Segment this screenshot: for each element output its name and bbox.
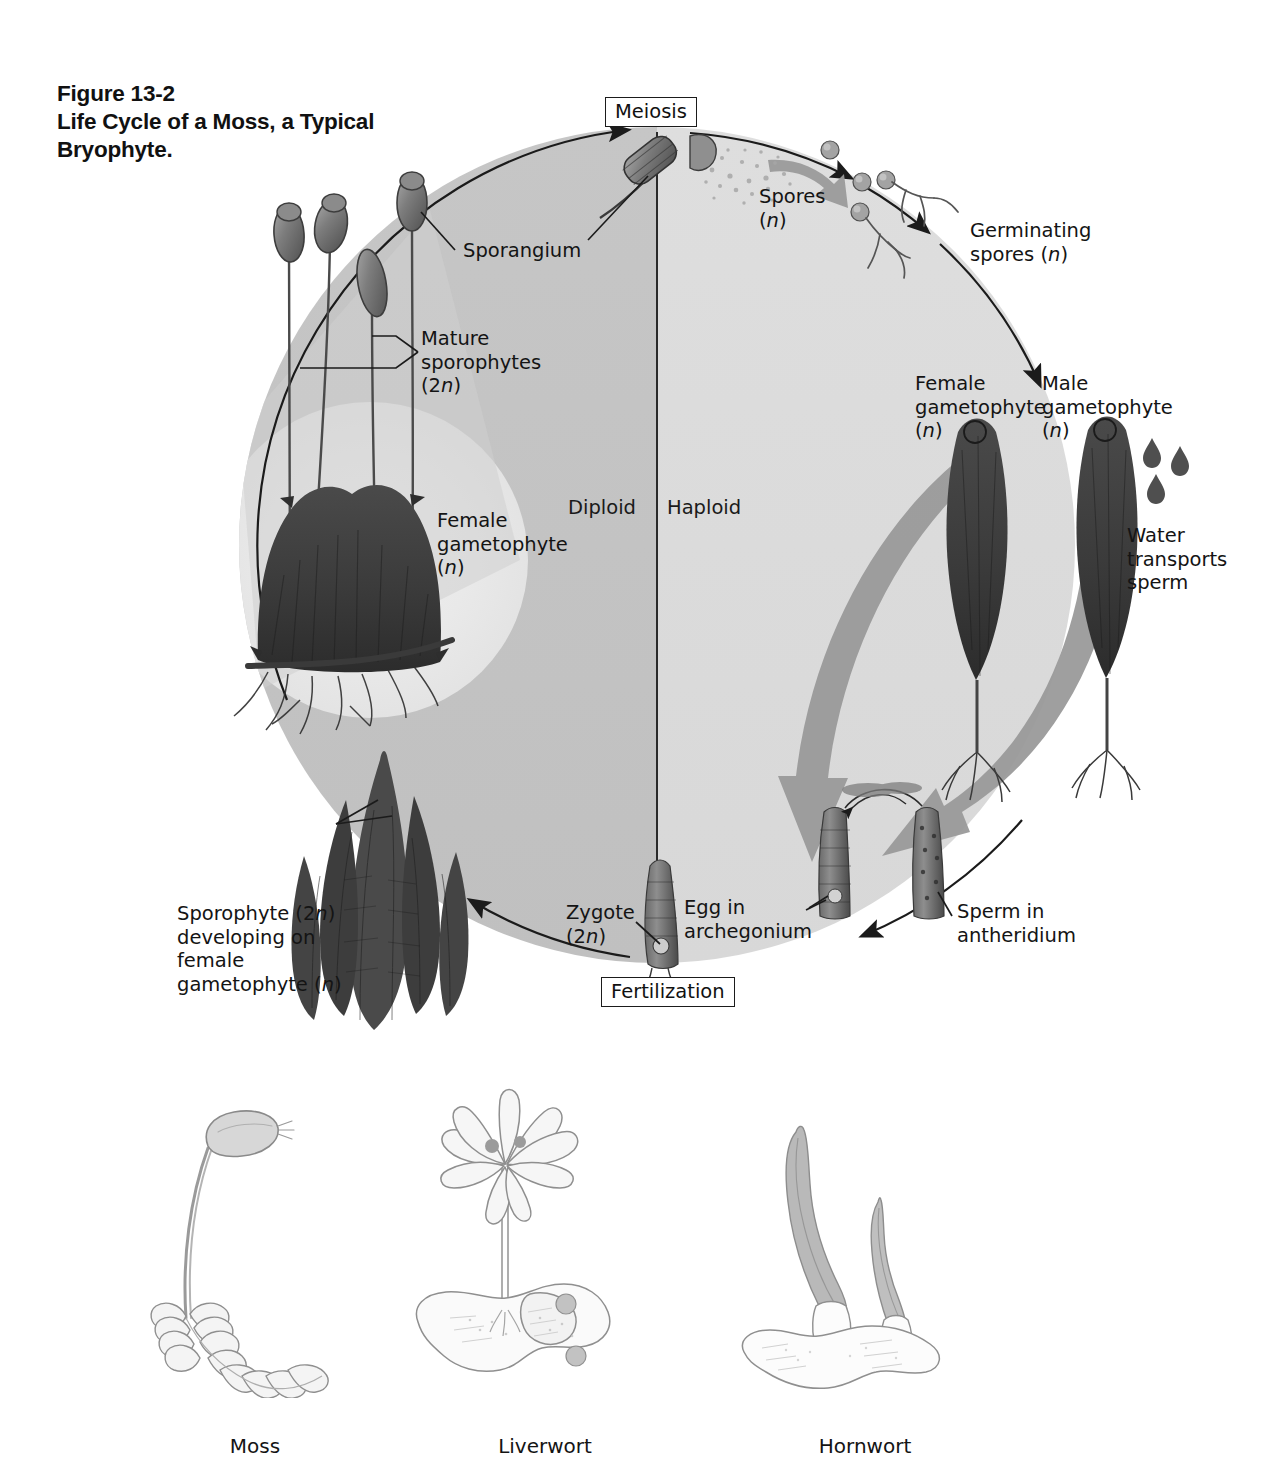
label-line: gametophyte [437,533,568,557]
egg-cell [828,889,842,903]
label-line: Spores [759,185,825,209]
label-germinating-spores: Germinating spores (n) [970,219,1091,266]
life-cycle-artwork [0,0,1282,1060]
life-cycle-diagram: Meiosis Fertilization Diploid Haploid Sp… [0,0,1282,1060]
process-box-fertilization: Fertilization [601,977,735,1007]
label-line-ploidy: (n) [1042,419,1173,443]
rhizoids-male [1072,750,1140,800]
label-line: sperm [1127,571,1227,595]
label-line-ploidy: (n) [915,419,1046,443]
label-spores: Spores (n) [759,185,825,232]
label-female-gametophyte-left: Female gametophyte (n) [437,509,568,580]
label-sperm-in-antheridium: Sperm in antheridium [957,900,1076,947]
liverwort-illustration [380,1068,710,1398]
label-line-ploidy: (2n) [566,925,635,949]
label-line: female [177,949,342,973]
hornwort-illustration [700,1068,1030,1398]
label-line: Sporophyte (2n) [177,902,342,926]
label-line-ploidy: (2n) [421,374,541,398]
label-line: Water [1127,524,1227,548]
process-box-meiosis: Meiosis [605,97,697,127]
specimen-hornwort: Hornwort [700,1068,1030,1464]
phase-label-haploid: Haploid [667,496,741,519]
specimen-moss: Moss [90,1068,420,1464]
label-line: developing on [177,926,342,950]
label-sporangium: Sporangium [463,239,581,263]
label-line: Male [1042,372,1173,396]
archegonium [819,808,851,920]
label-line: Mature [421,327,541,351]
label-zygote: Zygote (2n) [566,901,635,948]
label-line: gametophyte [915,396,1046,420]
label-water-transports-sperm: Water transports sperm [1127,524,1227,595]
label-sporophyte-developing: Sporophyte (2n) developing on female gam… [177,902,342,996]
label-line-ploidy: (n) [759,209,825,233]
specimen-label-liverwort: Liverwort [380,1434,710,1458]
label-line: archegonium [684,920,812,944]
antheridium [913,808,944,920]
label-line: sporophytes [421,351,541,375]
label-female-gametophyte-right: Female gametophyte (n) [915,372,1046,443]
specimen-liverwort: Liverwort [380,1068,710,1464]
label-line: Egg in [684,896,812,920]
label-line-ploidy: (n) [437,556,568,580]
label-mature-sporophytes: Mature sporophytes (2n) [421,327,541,398]
label-line: Female [437,509,568,533]
moss-illustration [90,1068,420,1398]
specimen-label-moss: Moss [90,1434,420,1458]
label-egg-in-archegonium: Egg in archegonium [684,896,812,943]
label-line: transports [1127,548,1227,572]
label-line: Sperm in [957,900,1076,924]
label-male-gametophyte: Male gametophyte (n) [1042,372,1173,443]
label-line: Female [915,372,1046,396]
bryophyte-specimen-row: Moss [0,1068,1282,1464]
water-droplets [1143,438,1189,504]
phase-label-diploid: Diploid [568,496,636,519]
specimen-label-hornwort: Hornwort [700,1434,1030,1458]
label-line-ploidy: spores (n) [970,243,1091,267]
label-line: gametophyte (n) [177,973,342,997]
label-line: gametophyte [1042,396,1173,420]
label-line: antheridium [957,924,1076,948]
label-line: Zygote [566,901,635,925]
label-line: Germinating [970,219,1091,243]
